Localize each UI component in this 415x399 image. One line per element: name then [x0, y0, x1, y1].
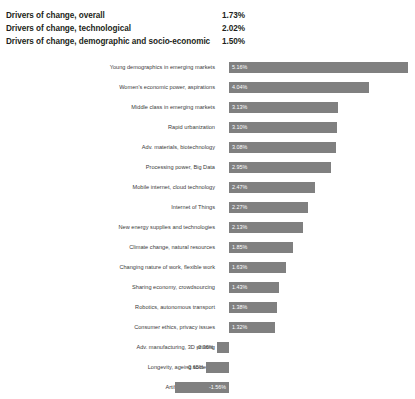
category-label: Adv. materials, biotechnology	[142, 137, 215, 157]
bar-value-label: 1.38%	[232, 302, 247, 313]
bar-value-label: -1.56%	[175, 382, 226, 393]
bar	[217, 342, 229, 353]
category-label: Middle class in emerging markets	[131, 97, 215, 117]
chart-row: Artificial intelligence-1.56%	[0, 377, 415, 397]
chart-row: Internet of Things2.27%	[0, 197, 415, 217]
summary-header: Drivers of change, overall1.73%Drivers o…	[0, 0, 415, 48]
chart-row: Robotics, autonomous transport1.38%	[0, 297, 415, 317]
bar	[206, 362, 229, 373]
category-label: Mobile internet, cloud technology	[133, 177, 215, 197]
summary-row: Drivers of change, overall1.73%	[0, 9, 415, 22]
summary-row-value: 2.02%	[222, 22, 245, 35]
chart-row: Young demographics in emerging markets5.…	[0, 57, 415, 77]
category-label: Sharing economy, crowdsourcing	[132, 277, 215, 297]
bar-value-label: -0.36%	[196, 342, 213, 353]
summary-row: Drivers of change, demographic and socio…	[0, 35, 415, 48]
chart-row: Women's economic power, aspirations4.04%	[0, 77, 415, 97]
category-label: Rapid urbanization	[168, 117, 215, 137]
bar-value-label: 3.10%	[232, 122, 247, 133]
chart-row: Adv. manufacturing, 3D printing-0.36%	[0, 337, 415, 357]
bar-value-label: 2.13%	[232, 222, 247, 233]
bar-value-label: 1.85%	[232, 242, 247, 253]
bar-value-label: 2.95%	[232, 162, 247, 173]
summary-row-label: Drivers of change, demographic and socio…	[0, 35, 222, 48]
bar	[229, 82, 369, 93]
chart-row: Adv. materials, biotechnology3.08%	[0, 137, 415, 157]
bar-value-label: -0.65%	[186, 362, 203, 373]
chart-row: Processing power, Big Data2.95%	[0, 157, 415, 177]
category-label: Longevity, ageing societies	[148, 357, 215, 377]
bar-value-label: 1.63%	[232, 262, 247, 273]
category-label: Consumer ethics, privacy issues	[134, 317, 215, 337]
summary-row: Drivers of change, technological2.02%	[0, 22, 415, 35]
category-label: Women's economic power, aspirations	[119, 77, 215, 97]
summary-row-label: Drivers of change, overall	[0, 9, 222, 22]
chart-row: Longevity, ageing societies-0.65%	[0, 357, 415, 377]
bar-value-label: 2.27%	[232, 202, 247, 213]
bar-value-label: 3.13%	[232, 102, 247, 113]
summary-row-value: 1.73%	[222, 9, 245, 22]
category-label: Processing power, Big Data	[146, 157, 215, 177]
category-label: Changing nature of work, flexible work	[119, 257, 215, 277]
bar-value-label: 3.08%	[232, 142, 247, 153]
summary-row-label: Drivers of change, technological	[0, 22, 222, 35]
chart-row: Changing nature of work, flexible work1.…	[0, 257, 415, 277]
category-label: Robotics, autonomous transport	[135, 297, 215, 317]
bar-value-label: 4.04%	[232, 82, 247, 93]
category-label: Climate change, natural resources	[129, 237, 215, 257]
chart-row: Rapid urbanization3.10%	[0, 117, 415, 137]
chart-row: Consumer ethics, privacy issues1.32%	[0, 317, 415, 337]
bar-value-label: 1.43%	[232, 282, 247, 293]
chart-row: Middle class in emerging markets3.13%	[0, 97, 415, 117]
bar-chart: Young demographics in emerging markets5.…	[0, 56, 415, 399]
bar-value-label: 2.47%	[232, 182, 247, 193]
chart-row: Mobile internet, cloud technology2.47%	[0, 177, 415, 197]
bar-value-label: 5.16%	[232, 62, 247, 73]
category-label: Young demographics in emerging markets	[110, 57, 215, 77]
category-label: Internet of Things	[171, 197, 215, 217]
category-label: New energy supplies and technologies	[119, 217, 216, 237]
chart-row: New energy supplies and technologies2.13…	[0, 217, 415, 237]
bar-value-label: 1.32%	[232, 322, 247, 333]
chart-row: Sharing economy, crowdsourcing1.43%	[0, 277, 415, 297]
chart-row: Climate change, natural resources1.85%	[0, 237, 415, 257]
bar	[229, 62, 408, 73]
summary-row-value: 1.50%	[222, 35, 245, 48]
